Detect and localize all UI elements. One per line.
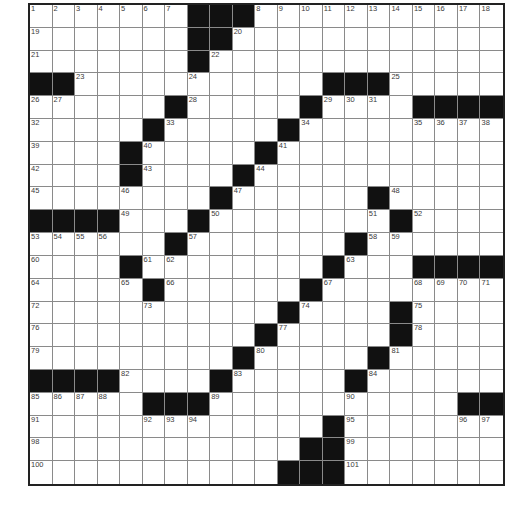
grid-cell[interactable] (300, 324, 323, 347)
grid-cell[interactable] (75, 279, 98, 302)
grid-cell[interactable]: 45 (30, 187, 53, 210)
grid-cell[interactable] (75, 416, 98, 439)
grid-cell[interactable] (435, 347, 458, 370)
grid-cell[interactable]: 65 (120, 279, 143, 302)
grid-cell[interactable] (53, 51, 76, 74)
grid-cell[interactable] (368, 438, 391, 461)
grid-cell[interactable]: 40 (143, 142, 166, 165)
grid-cell[interactable] (165, 210, 188, 233)
grid-cell[interactable] (345, 302, 368, 325)
grid-cell[interactable]: 16 (435, 5, 458, 28)
grid-cell[interactable] (323, 187, 346, 210)
grid-cell[interactable] (300, 416, 323, 439)
grid-cell[interactable] (458, 461, 481, 484)
grid-cell[interactable] (413, 347, 436, 370)
grid-cell[interactable] (255, 51, 278, 74)
grid-cell[interactable]: 41 (278, 142, 301, 165)
grid-cell[interactable]: 91 (30, 416, 53, 439)
grid-cell[interactable] (300, 142, 323, 165)
grid-cell[interactable]: 81 (390, 347, 413, 370)
grid-cell[interactable] (323, 165, 346, 188)
grid-cell[interactable] (53, 461, 76, 484)
grid-cell[interactable] (390, 165, 413, 188)
grid-cell[interactable] (323, 302, 346, 325)
grid-cell[interactable] (188, 142, 211, 165)
grid-cell[interactable] (458, 187, 481, 210)
grid-cell[interactable] (458, 73, 481, 96)
grid-cell[interactable] (480, 370, 503, 393)
grid-cell[interactable] (188, 187, 211, 210)
grid-cell[interactable]: 32 (30, 119, 53, 142)
grid-cell[interactable] (413, 165, 436, 188)
grid-cell[interactable]: 92 (143, 416, 166, 439)
grid-cell[interactable]: 97 (480, 416, 503, 439)
grid-cell[interactable] (300, 393, 323, 416)
grid-cell[interactable] (323, 324, 346, 347)
grid-cell[interactable] (210, 119, 233, 142)
grid-cell[interactable]: 73 (143, 302, 166, 325)
grid-cell[interactable] (390, 51, 413, 74)
grid-cell[interactable]: 85 (30, 393, 53, 416)
grid-cell[interactable] (188, 324, 211, 347)
grid-cell[interactable] (278, 370, 301, 393)
grid-cell[interactable]: 44 (255, 165, 278, 188)
grid-cell[interactable] (300, 51, 323, 74)
grid-cell[interactable] (120, 416, 143, 439)
grid-cell[interactable] (120, 119, 143, 142)
grid-cell[interactable] (458, 324, 481, 347)
grid-cell[interactable] (278, 393, 301, 416)
grid-cell[interactable] (413, 187, 436, 210)
grid-cell[interactable] (480, 233, 503, 256)
grid-cell[interactable] (278, 187, 301, 210)
grid-cell[interactable]: 68 (413, 279, 436, 302)
grid-cell[interactable] (255, 233, 278, 256)
grid-cell[interactable] (75, 28, 98, 51)
grid-cell[interactable] (255, 393, 278, 416)
grid-cell[interactable] (390, 96, 413, 119)
grid-cell[interactable] (233, 279, 256, 302)
grid-cell[interactable] (143, 187, 166, 210)
grid-cell[interactable] (345, 51, 368, 74)
grid-cell[interactable] (278, 233, 301, 256)
grid-cell[interactable] (98, 96, 121, 119)
grid-cell[interactable] (480, 73, 503, 96)
grid-cell[interactable] (143, 347, 166, 370)
grid-cell[interactable]: 83 (233, 370, 256, 393)
grid-cell[interactable] (480, 302, 503, 325)
grid-cell[interactable] (368, 142, 391, 165)
grid-cell[interactable] (480, 51, 503, 74)
grid-cell[interactable]: 88 (98, 393, 121, 416)
grid-cell[interactable]: 72 (30, 302, 53, 325)
grid-cell[interactable] (368, 461, 391, 484)
grid-cell[interactable]: 57 (188, 233, 211, 256)
grid-cell[interactable] (480, 187, 503, 210)
grid-cell[interactable]: 79 (30, 347, 53, 370)
grid-cell[interactable] (278, 279, 301, 302)
grid-cell[interactable] (345, 187, 368, 210)
grid-cell[interactable] (143, 210, 166, 233)
grid-cell[interactable] (278, 438, 301, 461)
grid-cell[interactable] (143, 324, 166, 347)
grid-cell[interactable]: 70 (458, 279, 481, 302)
grid-cell[interactable] (120, 73, 143, 96)
grid-cell[interactable] (53, 256, 76, 279)
grid-cell[interactable]: 15 (413, 5, 436, 28)
grid-cell[interactable]: 52 (413, 210, 436, 233)
grid-cell[interactable] (345, 210, 368, 233)
grid-cell[interactable] (435, 370, 458, 393)
grid-cell[interactable] (390, 438, 413, 461)
grid-cell[interactable] (300, 210, 323, 233)
grid-cell[interactable] (413, 370, 436, 393)
grid-cell[interactable]: 39 (30, 142, 53, 165)
grid-cell[interactable]: 66 (165, 279, 188, 302)
grid-cell[interactable]: 12 (345, 5, 368, 28)
grid-cell[interactable] (368, 256, 391, 279)
grid-cell[interactable]: 13 (368, 5, 391, 28)
grid-cell[interactable]: 98 (30, 438, 53, 461)
grid-cell[interactable] (188, 370, 211, 393)
grid-cell[interactable] (255, 370, 278, 393)
grid-cell[interactable] (75, 142, 98, 165)
grid-cell[interactable] (480, 142, 503, 165)
grid-cell[interactable] (300, 73, 323, 96)
grid-cell[interactable] (278, 96, 301, 119)
